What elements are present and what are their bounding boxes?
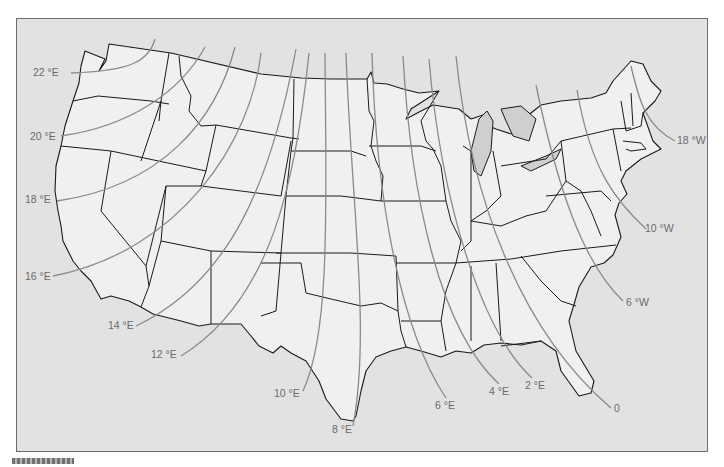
label-6E: 6 °E [435, 399, 455, 411]
label-10W: 10 °W [645, 222, 674, 234]
label-20E: 20 °E [30, 130, 56, 142]
label-8E: 8 °E [332, 423, 352, 435]
label-0: 0 [614, 402, 620, 414]
label-10E: 10 °E [274, 387, 300, 399]
figure-caption-fragment [12, 458, 74, 464]
label-4E: 4 °E [489, 385, 509, 397]
label-18W: 18 °W [677, 134, 706, 146]
label-2E: 2 °E [525, 379, 545, 391]
label-18E: 18 °E [25, 193, 51, 205]
us-declination-map: 22 °E 20 °E 18 °E 16 °E 14 °E 12 °E 10 °… [17, 19, 709, 453]
label-16E: 16 °E [25, 270, 51, 282]
label-14E: 14 °E [108, 319, 134, 331]
label-22E: 22 °E [33, 66, 59, 78]
map-frame: 22 °E 20 °E 18 °E 16 °E 14 °E 12 °E 10 °… [16, 18, 708, 452]
label-6W: 6 °W [626, 296, 649, 308]
label-12E: 12 °E [151, 348, 177, 360]
